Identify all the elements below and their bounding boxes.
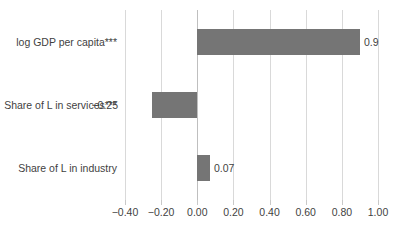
bar-chart: log GDP per capita*** Share of L in serv… [0, 0, 395, 238]
x-tick-label: 0.80 [332, 207, 352, 218]
x-tick-label: 0.60 [295, 207, 315, 218]
x-tick-mark [378, 200, 379, 205]
category-label-row: Share of L in industry [0, 137, 121, 200]
category-label: log GDP per capita*** [16, 36, 117, 47]
x-tick-mark [342, 200, 343, 205]
x-tick-mark [270, 200, 271, 205]
bar-value-label: 0.07 [214, 163, 234, 174]
bar[interactable] [152, 92, 197, 118]
bar-row: 0.07 [125, 137, 378, 200]
x-tick-mark [306, 200, 307, 205]
x-tick-mark [125, 200, 126, 205]
x-tick-mark [197, 200, 198, 205]
x-tick-label: 1.00 [368, 207, 388, 218]
x-tick-label: −0.20 [148, 207, 175, 218]
x-tick-mark [161, 200, 162, 205]
bar-row: −0.25 [125, 73, 378, 136]
x-tick-mark [233, 200, 234, 205]
bar[interactable] [197, 29, 360, 55]
x-axis: −0.40 −0.20 0.00 0.20 0.40 0.60 0.80 1.0… [125, 200, 378, 230]
x-tick-label: 0.20 [223, 207, 243, 218]
bar-value-label: 0.9 [364, 36, 379, 47]
bar-value-label: −0.25 [91, 100, 118, 111]
category-label-row: log GDP per capita*** [0, 10, 121, 73]
bar[interactable] [197, 155, 210, 181]
x-tick-label: 0.00 [187, 207, 207, 218]
category-label: Share of L in industry [18, 163, 117, 174]
plot-area: 0.9 −0.25 0.07 [125, 10, 378, 200]
x-tick-label: 0.40 [259, 207, 279, 218]
bar-row: 0.9 [125, 10, 378, 73]
x-tick-label: −0.40 [112, 207, 139, 218]
